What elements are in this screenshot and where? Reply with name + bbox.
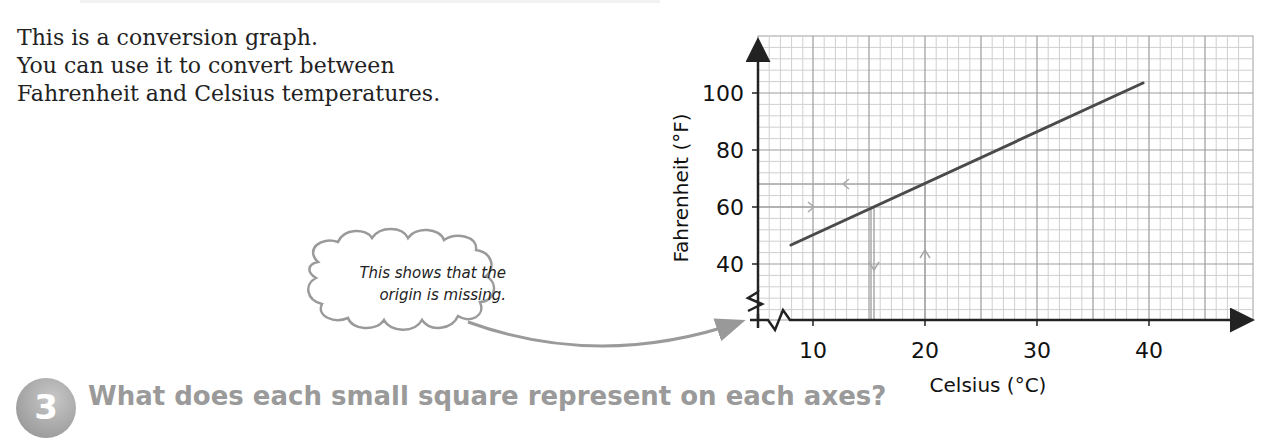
y-tick-labels: 100 80 60 40	[702, 81, 744, 277]
x-tick-40: 40	[1135, 338, 1163, 363]
y-axis-title: Fahrenheit (°F)	[669, 113, 693, 262]
callout-line-1: This shows that the	[326, 262, 506, 284]
y-tick-100: 100	[702, 81, 744, 106]
y-tick-40: 40	[716, 252, 744, 277]
grid	[758, 36, 1253, 320]
x-axis-title: Celsius (°C)	[930, 373, 1047, 397]
x-tick-labels: 10 20 30 40	[799, 338, 1163, 363]
y-tick-60: 60	[716, 195, 744, 220]
question-number-badge: 3	[16, 378, 76, 438]
callout-line-2: origin is missing.	[326, 284, 506, 306]
x-tick-20: 20	[911, 338, 939, 363]
y-tick-80: 80	[716, 138, 744, 163]
x-tick-10: 10	[799, 338, 827, 363]
callout-arrow	[468, 322, 740, 346]
callout-text: This shows that the origin is missing.	[326, 262, 506, 306]
question-text: What does each small square represent on…	[88, 381, 886, 411]
x-tick-30: 30	[1023, 338, 1051, 363]
